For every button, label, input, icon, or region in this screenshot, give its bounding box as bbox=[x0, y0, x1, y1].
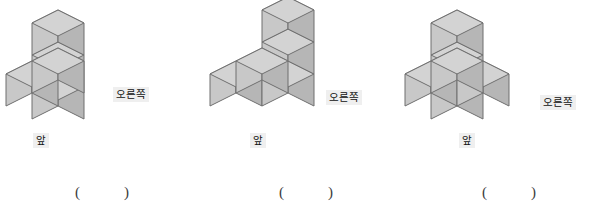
figure-3-stage bbox=[407, 0, 611, 165]
figure-2-right-label: 오른쪽 bbox=[326, 90, 362, 105]
figure-1-answer-blank[interactable]: () bbox=[0, 184, 204, 201]
paren-close: ) bbox=[531, 184, 536, 201]
figure-1-right-label: 오른쪽 bbox=[113, 87, 149, 102]
figure-3-answer-blank[interactable]: () bbox=[407, 184, 611, 201]
building-blocks-figure-3: 오른쪽 앞 () bbox=[407, 0, 611, 209]
figure-2-stage bbox=[204, 0, 408, 165]
paren-open: ( bbox=[279, 184, 284, 201]
figure-1-stage bbox=[0, 0, 204, 165]
figure-2-cube-drawing bbox=[204, 0, 408, 165]
paren-open: ( bbox=[482, 184, 487, 201]
figure-3-cube-drawing bbox=[407, 0, 611, 165]
paren-close: ) bbox=[124, 184, 129, 201]
figure-2-answer-blank[interactable]: () bbox=[204, 184, 408, 201]
figure-3-front-label: 앞 bbox=[459, 133, 475, 148]
paren-open: ( bbox=[75, 184, 80, 201]
paren-close: ) bbox=[328, 184, 333, 201]
building-blocks-figure-1: 오른쪽 앞 () bbox=[0, 0, 204, 209]
figure-1-cube-drawing bbox=[0, 0, 204, 165]
figures-board: 오른쪽 앞 () 오른쪽 앞 () 오른쪽 앞 () bbox=[0, 0, 611, 209]
building-blocks-figure-2: 오른쪽 앞 () bbox=[204, 0, 408, 209]
figure-1-front-label: 앞 bbox=[33, 133, 49, 148]
figure-3-right-label: 오른쪽 bbox=[540, 95, 576, 110]
figure-2-front-label: 앞 bbox=[250, 133, 266, 148]
